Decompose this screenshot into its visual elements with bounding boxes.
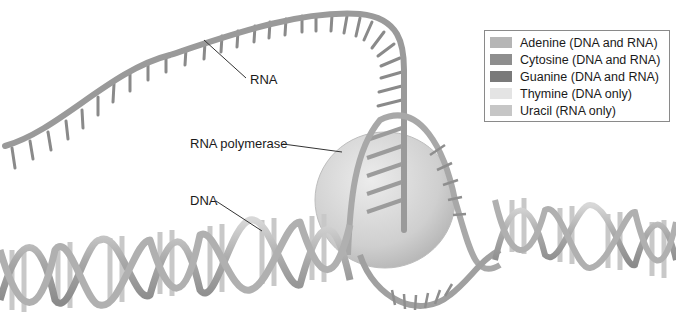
legend-item-uracil: Uracil (RNA only) (490, 102, 664, 119)
dna-helix-right (495, 198, 676, 278)
adenine-swatch (490, 37, 512, 48)
uracil-swatch (490, 105, 512, 116)
thymine-swatch (490, 88, 512, 99)
legend-item-adenine: Adenine (DNA and RNA) (490, 34, 664, 51)
guanine-swatch (490, 71, 512, 82)
legend-item-thymine: Thymine (DNA only) (490, 85, 664, 102)
cytosine-swatch (490, 54, 512, 65)
dna-label: DNA (190, 193, 217, 208)
rna-label: RNA (250, 72, 277, 87)
rna-polymerase-label: RNA polymerase (190, 136, 288, 151)
dna-helix-left (0, 214, 350, 312)
rna-leader (204, 40, 246, 78)
legend-item-guanine: Guanine (DNA and RNA) (490, 68, 664, 85)
polymerase-leader (283, 144, 342, 152)
base-legend: Adenine (DNA and RNA) Cytosine (DNA and … (484, 30, 670, 122)
legend-item-cytosine: Cytosine (DNA and RNA) (490, 51, 664, 68)
